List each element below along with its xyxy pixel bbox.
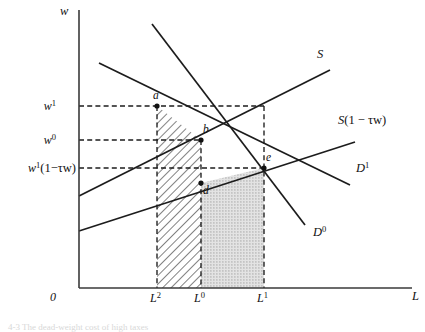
y-tick-label-w1-net-of-tax: w1(1−τw) [28,160,76,175]
point-marker-b [198,137,203,142]
region-hatched-deadweight [157,106,201,288]
curve-label-D1: D1 [355,160,369,175]
y-axis-label: w [60,4,69,18]
origin-label: 0 [50,290,56,304]
economics-diagram: a b d e S S(1 − τw) D1 D0 w L 0 [0,0,425,332]
curve-label-S: S [317,47,324,61]
x-tick-labels: L2 L0 L1 [149,290,268,305]
point-label-b: b [203,123,209,135]
point-label-e: e [266,151,271,163]
curve-labels: S S(1 − τw) D1 D0 [312,47,386,239]
x-tick-label-L2: L2 [149,290,161,305]
point-label-a: a [153,89,159,101]
region-stippled-tax-revenue [201,168,264,288]
x-axis-label: L [411,289,419,303]
point-marker-e [261,165,266,170]
figure-root: a b d e S S(1 − τw) D1 D0 w L 0 [0,0,425,332]
y-tick-label-w0: w0 [44,132,56,147]
x-tick-label-L0: L0 [193,290,205,305]
y-tick-label-w1: w1 [44,98,56,113]
point-marker-a [154,103,159,108]
figure-caption: 4-3 The dead-weight cost of high taxes [8,322,148,332]
point-label-d: d [203,184,209,196]
curve-label-D0: D0 [312,224,326,239]
y-tick-labels: w1 w0 w1(1−τw) [28,98,76,175]
curve-label-S-net-of-tax: S(1 − τw) [338,113,386,127]
x-tick-label-L1: L1 [256,290,268,305]
